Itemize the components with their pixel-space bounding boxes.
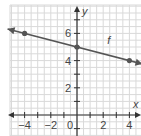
axes: [8, 6, 141, 136]
x-tick-label: 2: [100, 119, 106, 131]
coordinate-plane: −4−2024246 x y f: [0, 0, 141, 136]
y-axis-up-arrow-icon: [74, 6, 80, 12]
data-point: [74, 44, 79, 49]
y-axis-label: y: [81, 5, 89, 17]
y-tick-label: 2: [65, 82, 71, 94]
x-tick-label: 0: [67, 119, 73, 131]
x-tick-label: −4: [18, 119, 31, 131]
function-line: [8, 29, 141, 64]
x-tick-label: 4: [126, 119, 132, 131]
x-axis-label: x: [132, 98, 139, 110]
x-axis-right-arrow-icon: [135, 112, 141, 118]
data-point: [127, 58, 132, 63]
function-line-f: [7, 26, 141, 68]
y-tick-label: 6: [65, 27, 71, 39]
grid-lines: [10, 5, 141, 136]
data-point: [22, 31, 27, 36]
x-tick-label: −2: [45, 119, 58, 131]
y-tick-label: 4: [65, 55, 71, 67]
